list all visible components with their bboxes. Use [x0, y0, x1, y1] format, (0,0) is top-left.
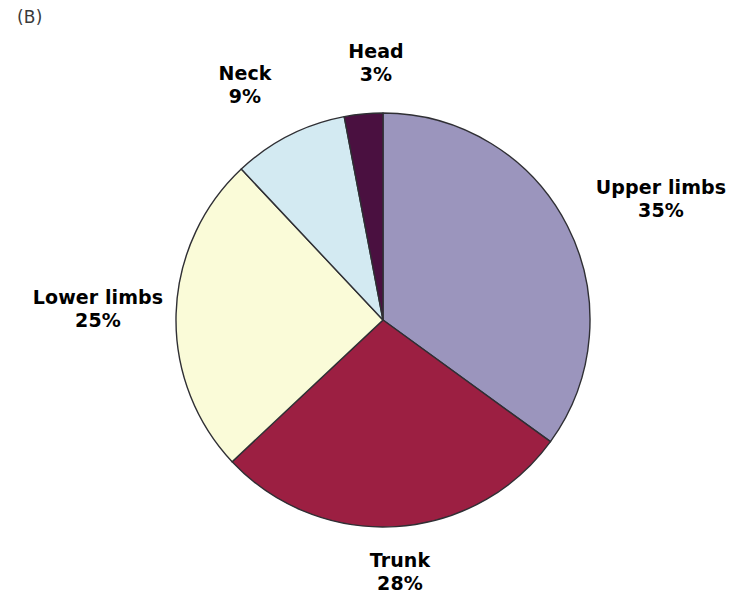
pie-label-upper-limbs-name: Upper limbs: [582, 176, 739, 199]
pie-label-head-value: 3%: [321, 63, 431, 86]
pie-label-upper-limbs: Upper limbs 35%: [582, 176, 739, 222]
pie-label-lower-limbs: Lower limbs 25%: [14, 286, 182, 332]
pie-label-neck: Neck 9%: [190, 62, 300, 108]
pie-label-trunk: Trunk 28%: [340, 549, 460, 595]
pie-label-head-name: Head: [321, 40, 431, 63]
pie-label-head: Head 3%: [321, 40, 431, 86]
pie-label-trunk-value: 28%: [340, 572, 460, 595]
pie-label-neck-value: 9%: [190, 85, 300, 108]
pie-slice-group: [176, 113, 590, 527]
pie-label-lower-limbs-name: Lower limbs: [14, 286, 182, 309]
pie-label-neck-name: Neck: [190, 62, 300, 85]
pie-label-lower-limbs-value: 25%: [14, 309, 182, 332]
pie-label-trunk-name: Trunk: [340, 549, 460, 572]
pie-label-upper-limbs-value: 35%: [582, 199, 739, 222]
